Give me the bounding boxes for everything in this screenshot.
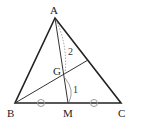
median-am — [55, 18, 68, 103]
triangle-diagram: A B C M G 2 1 — [0, 0, 143, 121]
label-a: A — [50, 4, 58, 16]
triangle-abc — [15, 18, 121, 103]
label-b: B — [7, 107, 14, 119]
label-g: G — [53, 65, 61, 77]
label-m: M — [63, 107, 73, 119]
ratio-1: 1 — [73, 84, 78, 95]
label-c: C — [118, 107, 125, 119]
ratio-2: 2 — [68, 46, 73, 57]
